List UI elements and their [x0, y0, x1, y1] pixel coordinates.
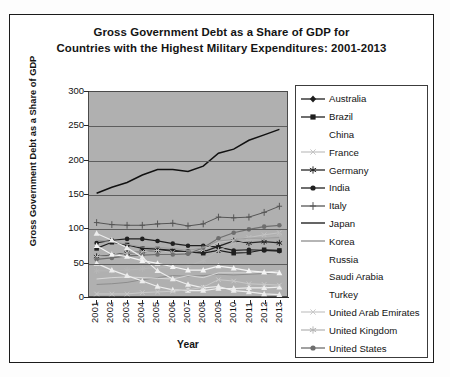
plot-background	[88, 91, 288, 297]
x-tick-mark	[280, 300, 281, 304]
legend-item-italy[interactable]: Italy	[300, 197, 424, 215]
y-axis-label: Gross Government Debt as a Share of GDP	[28, 51, 52, 251]
y-axis-tick-labels: 300250200150100500	[54, 86, 84, 302]
x-tick-label: 2007	[182, 302, 194, 336]
x-tick-mark	[250, 300, 251, 304]
gridline-200	[89, 161, 287, 162]
legend-label: Australia	[326, 93, 366, 104]
x-tick-label: 2013	[274, 302, 286, 336]
legend-label: China	[326, 129, 354, 140]
legend-item-brazil[interactable]: Brazil	[300, 108, 424, 126]
legend-key-none-icon	[300, 253, 326, 265]
x-tick-label: 2012	[259, 302, 271, 336]
x-tick-mark	[157, 300, 158, 304]
legend-item-china[interactable]: China	[300, 126, 424, 144]
x-tick-mark	[96, 300, 97, 304]
y-tick-label: 0	[58, 292, 84, 302]
legend-key-x-icon	[300, 146, 326, 158]
x-tick-label: 2010	[228, 302, 240, 336]
x-tick-mark	[142, 300, 143, 304]
legend-key-line-icon	[300, 217, 326, 229]
gridline-50	[89, 264, 287, 265]
x-tick-label: 2006	[167, 302, 179, 336]
legend-key-diamond-icon	[300, 93, 326, 105]
legend-item-united-states[interactable]: United States	[300, 339, 424, 357]
y-tick-mark	[84, 91, 89, 92]
legend-label: France	[326, 147, 359, 158]
legend-label: Italy	[326, 200, 347, 211]
legend-key-square-icon	[300, 111, 326, 123]
legend-key-star-icon	[300, 164, 326, 176]
legend-item-india[interactable]: India	[300, 179, 424, 197]
legend-item-korea[interactable]: Korea	[300, 232, 424, 250]
chart-title-line1: Gross Government Debt as a Share of GDP …	[93, 26, 349, 38]
x-tick-mark	[127, 300, 128, 304]
series-italy	[94, 203, 282, 230]
x-tick-label: 2011	[244, 302, 256, 336]
x-axis-tick-labels: 2001200220032004200520062007200820092010…	[88, 300, 288, 336]
legend-key-none-icon	[300, 289, 326, 301]
legend-item-turkey[interactable]: Turkey	[300, 286, 424, 304]
x-tick-mark	[188, 300, 189, 304]
x-tick-label: 2005	[151, 302, 163, 336]
legend-label: Saudi Arabia	[326, 271, 383, 282]
legend-key-line-icon	[300, 235, 326, 247]
x-tick-mark	[111, 300, 112, 304]
y-tick-mark	[84, 125, 89, 126]
y-tick-mark	[84, 228, 89, 229]
x-tick-label: 2009	[213, 302, 225, 336]
x-tick-label: 2002	[105, 302, 117, 336]
x-axis-line	[88, 297, 289, 298]
legend-key-none-icon	[300, 271, 326, 283]
legend-key-circle-icon	[300, 182, 326, 194]
plot-area	[88, 91, 288, 297]
legend-label: United States	[326, 343, 387, 354]
legend-label: India	[326, 182, 350, 193]
chart-title-line2: Countries with the Highest Military Expe…	[9, 40, 434, 56]
legend-label: Japan	[326, 218, 355, 229]
x-tick-mark	[219, 300, 220, 304]
legend-label: Germany	[326, 165, 368, 176]
legend-key-star-icon	[300, 324, 326, 336]
legend-key-circle-icon	[300, 342, 326, 354]
x-tick-mark	[265, 300, 266, 304]
y-tick-label: 50	[58, 258, 84, 268]
legend-item-russia[interactable]: Russia	[300, 250, 424, 268]
x-tick-label: 2004	[136, 302, 148, 336]
legend-label: United Arab Emirates	[326, 307, 420, 318]
series-united-arab-emirates	[94, 277, 281, 296]
x-axis-label: Year	[88, 339, 288, 350]
x-tick-mark	[234, 300, 235, 304]
y-tick-label: 200	[58, 155, 84, 165]
legend-label: Brazil	[326, 111, 353, 122]
legend-item-united-kingdom[interactable]: United Kingdom	[300, 321, 424, 339]
y-tick-label: 250	[58, 120, 84, 130]
chart-legend: AustraliaBrazilChinaFranceGermanyIndiaIt…	[295, 85, 428, 358]
legend-item-saudi-arabia[interactable]: Saudi Arabia	[300, 268, 424, 286]
y-tick-mark	[84, 160, 89, 161]
y-tick-label: 150	[58, 189, 84, 199]
legend-label: Korea	[326, 236, 355, 247]
y-tick-label: 300	[58, 86, 84, 96]
legend-label: Russia	[326, 254, 358, 265]
y-tick-mark	[84, 194, 89, 195]
legend-item-japan[interactable]: Japan	[300, 215, 424, 233]
legend-key-none-icon	[300, 128, 326, 140]
legend-label: United Kingdom	[326, 325, 397, 336]
x-tick-mark	[173, 300, 174, 304]
legend-item-france[interactable]: France	[300, 143, 424, 161]
y-tick-mark	[84, 263, 89, 264]
chart-screenshot: Gross Government Debt as a Share of GDP …	[0, 0, 450, 377]
legend-label: Turkey	[326, 289, 358, 300]
chart-title: Gross Government Debt as a Share of GDP …	[9, 24, 434, 56]
gridline-100	[89, 229, 287, 230]
legend-item-germany[interactable]: Germany	[300, 161, 424, 179]
series-canvas	[89, 92, 287, 296]
x-tick-label: 2003	[121, 302, 133, 336]
legend-key-plus-icon	[300, 200, 326, 212]
x-tick-label: 2001	[90, 302, 102, 336]
legend-item-united-arab-emirates[interactable]: United Arab Emirates	[300, 304, 424, 322]
legend-item-australia[interactable]: Australia	[300, 90, 424, 108]
y-tick-label: 100	[58, 223, 84, 233]
x-tick-mark	[203, 300, 204, 304]
